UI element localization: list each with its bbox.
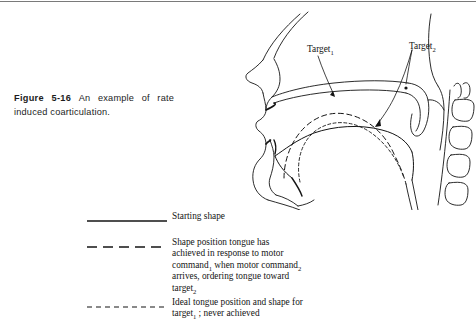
nose-profile: [246, 60, 263, 93]
target2-point-marker: [404, 86, 407, 89]
legend-ideal-line-2b: ; never achieved: [196, 308, 259, 318]
hyoid-line: [292, 178, 302, 196]
target1-label-subscript: 1: [330, 49, 333, 56]
lower-incisor-edge: [266, 140, 271, 144]
legend-swatch-solid: [86, 218, 168, 228]
legend-label-ideal-shape: Ideal tongue position and shape for targ…: [172, 297, 382, 320]
target2-label-text: Target: [409, 41, 432, 51]
vertebra-c3: [449, 126, 472, 149]
legend-swatch-short-dash: [86, 304, 168, 314]
epiglottis-base: [298, 200, 314, 206]
forehead-profile-line: [263, 14, 300, 60]
target1-leader-line: [318, 56, 334, 95]
figure-number: Figure 5-16: [14, 93, 71, 103]
legend-line-2: achieved in response to motor: [172, 248, 284, 258]
target1-label-text: Target: [307, 44, 330, 54]
legend-label-starting-shape: Starting shape: [172, 211, 382, 222]
legend-label-achieved-shape: Shape position tongue has achieved in re…: [172, 237, 382, 294]
atlas-process: [463, 83, 470, 99]
vertebra-c5: [445, 182, 468, 205]
legend-short-dash-line: [86, 304, 168, 310]
legend-line-5-sub: 2: [193, 287, 196, 294]
velopharyngeal-port: [428, 100, 444, 110]
geniohyoid-line: [276, 195, 298, 206]
vocal-tract-diagram: [222, 0, 476, 210]
target2-arrowhead: [375, 119, 381, 127]
pharynx-front-lower: [406, 184, 412, 210]
hard-palate-line: [272, 81, 408, 97]
legend-line-3-sub2: 2: [298, 265, 301, 272]
pharyngeal-wall-upper: [438, 86, 444, 150]
maxilla-front: [266, 59, 280, 110]
tongue-solid-starting-shape: [275, 126, 412, 156]
legend-line-5: target: [172, 283, 193, 293]
legend-solid-line: [86, 218, 168, 224]
vertebra-c2: [452, 99, 474, 121]
legend-ideal-line-1: Ideal tongue position and shape for: [172, 297, 303, 307]
legend-line-3b: when motor command: [212, 260, 298, 270]
legend-long-dash-line: [86, 244, 168, 250]
chin-profile: [253, 144, 268, 200]
mandible-inner: [269, 140, 276, 195]
vocal-tract-svg: [222, 0, 476, 210]
target1-label: Target1: [307, 44, 334, 54]
lower-teeth-line: [274, 140, 276, 154]
legend-swatch-long-dash: [86, 244, 168, 254]
legend-ideal-line-2a: target: [172, 308, 193, 318]
legend-line-text: Starting shape: [172, 211, 225, 221]
palate-inner-line: [274, 90, 406, 103]
legend-line-1: Shape position tongue has: [172, 237, 269, 247]
uvula-inner: [406, 93, 420, 131]
tongue-tip-solid: [275, 156, 292, 178]
submental-line: [268, 200, 300, 210]
velum-outline: [408, 83, 429, 136]
figure-caption: Figure 5-16 An example of rate induced c…: [14, 92, 174, 119]
figure-page: Figure 5-16 An example of rate induced c…: [0, 0, 476, 333]
vertebra-c4: [447, 154, 470, 177]
target2-label-subscript: 2: [432, 46, 435, 53]
odontoid-process: [454, 83, 461, 98]
tongue-root-solid: [412, 152, 414, 180]
legend-line-3a: command: [172, 260, 209, 270]
target2-label: Target2: [409, 41, 436, 51]
upper-lip-profile: [256, 93, 266, 144]
legend-line-4: arrives, ordering tongue toward: [172, 271, 289, 281]
pharynx-back-lower: [412, 180, 418, 210]
